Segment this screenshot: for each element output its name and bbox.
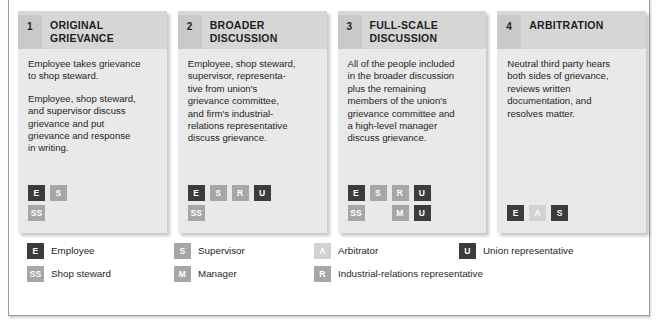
role-chip-e: E xyxy=(28,185,45,201)
legend-item-s: SSupervisor xyxy=(174,243,314,259)
legend-label: Employee xyxy=(51,243,95,259)
role-chip-e: E xyxy=(27,243,44,259)
card-body: Employee, shop steward, supervisor, repr… xyxy=(178,49,327,185)
legend-label: Industrial-relations representative xyxy=(338,266,483,282)
card-step-number: 3 xyxy=(338,15,362,49)
legend-item-a: AArbitrator xyxy=(314,243,459,259)
role-chip-ss: SS xyxy=(188,205,205,221)
role-chip-ss: SS xyxy=(28,205,45,221)
chip-row: EAS xyxy=(507,205,636,221)
role-chip-r: R xyxy=(314,266,331,282)
role-chip-e: E xyxy=(188,185,205,201)
role-chip-r: R xyxy=(392,185,409,201)
card-step-number: 2 xyxy=(178,15,202,49)
role-chip-ss: SS xyxy=(27,266,44,282)
process-card-2[interactable]: 2BROADER DISCUSSIONEmployee, shop stewar… xyxy=(178,11,327,233)
legend: EEmployeeSSupervisorAArbitratorUUnion re… xyxy=(27,243,639,289)
card-header: 3FULL-SCALE DISCUSSION xyxy=(338,11,487,49)
legend-row-1: EEmployeeSSupervisorAArbitratorUUnion re… xyxy=(27,243,639,260)
card-title: BROADER DISCUSSION xyxy=(202,15,327,44)
legend-label: Shop steward xyxy=(51,266,111,282)
process-card-4[interactable]: 4ARBITRATIONNeutral third party hears bo… xyxy=(497,11,646,233)
chip-spacer xyxy=(370,205,387,221)
role-chip-e: E xyxy=(507,205,524,221)
chip-row: SS xyxy=(188,205,317,221)
card-title: ORIGINAL GRIEVANCE xyxy=(42,15,167,44)
card-header: 1ORIGINAL GRIEVANCE xyxy=(18,11,167,49)
chip-row: ESRU xyxy=(188,185,317,201)
role-chip-r: R xyxy=(232,185,249,201)
card-header: 4ARBITRATION xyxy=(497,11,646,49)
card-body: Employee takes grievance to shop steward… xyxy=(18,49,167,185)
role-chip-u: U xyxy=(459,243,476,259)
process-card-3[interactable]: 3FULL-SCALE DISCUSSIONAll of the people … xyxy=(338,11,487,233)
chip-row: SS xyxy=(28,205,157,221)
process-card-1[interactable]: 1ORIGINAL GRIEVANCEEmployee takes grieva… xyxy=(18,11,167,233)
legend-item-r: RIndustrial-relations representative xyxy=(314,266,483,282)
card-paragraph: All of the people included in the broade… xyxy=(348,58,477,145)
card-role-chips: EAS xyxy=(497,205,646,233)
role-chip-s: S xyxy=(551,205,568,221)
role-chip-s: S xyxy=(370,185,387,201)
role-chip-ss: SS xyxy=(348,205,365,221)
legend-item-ss: SSShop steward xyxy=(27,266,174,282)
chip-row: ESRU xyxy=(348,185,477,201)
card-role-chips: ESRUSS xyxy=(178,185,327,233)
role-chip-u: U xyxy=(414,205,431,221)
legend-item-m: MManager xyxy=(174,266,314,282)
card-paragraph: Employee, shop steward, and supervisor d… xyxy=(28,93,157,155)
card-title: FULL-SCALE DISCUSSION xyxy=(362,15,487,44)
role-chip-u: U xyxy=(254,185,271,201)
process-card-list: 1ORIGINAL GRIEVANCEEmployee takes grieva… xyxy=(18,11,646,233)
legend-label: Supervisor xyxy=(198,243,245,259)
role-chip-e: E xyxy=(348,185,365,201)
role-chip-a: A xyxy=(529,205,546,221)
role-chip-u: U xyxy=(414,185,431,201)
card-header: 2BROADER DISCUSSION xyxy=(178,11,327,49)
legend-label: Union representative xyxy=(483,243,573,259)
legend-item-e: EEmployee xyxy=(27,243,174,259)
card-paragraph: Neutral third party hears both sides of … xyxy=(507,58,636,120)
card-step-number: 4 xyxy=(497,15,521,49)
card-role-chips: ESSS xyxy=(18,185,167,233)
role-chip-s: S xyxy=(50,185,67,201)
card-step-number: 1 xyxy=(18,15,42,49)
card-title: ARBITRATION xyxy=(521,15,646,32)
chip-row: ES xyxy=(28,185,157,201)
role-chip-a: A xyxy=(314,243,331,259)
legend-label: Arbitrator xyxy=(338,243,378,259)
role-chip-m: M xyxy=(392,205,409,221)
card-role-chips: ESRUSSMU xyxy=(338,185,487,233)
chip-row: SSMU xyxy=(348,205,477,221)
legend-label: Manager xyxy=(198,266,237,282)
role-chip-s: S xyxy=(174,243,191,259)
role-chip-s: S xyxy=(210,185,227,201)
legend-item-u: UUnion representative xyxy=(459,243,573,259)
figure-frame: 1ORIGINAL GRIEVANCEEmployee takes grieva… xyxy=(8,0,650,316)
card-paragraph: Employee takes grievance to shop steward… xyxy=(28,58,157,83)
card-body: Neutral third party hears both sides of … xyxy=(497,49,646,205)
card-body: All of the people included in the broade… xyxy=(338,49,487,185)
legend-row-2: SSShop stewardMManagerRIndustrial-relati… xyxy=(27,266,639,283)
card-paragraph: Employee, shop steward, supervisor, repr… xyxy=(188,58,317,145)
role-chip-m: M xyxy=(174,266,191,282)
